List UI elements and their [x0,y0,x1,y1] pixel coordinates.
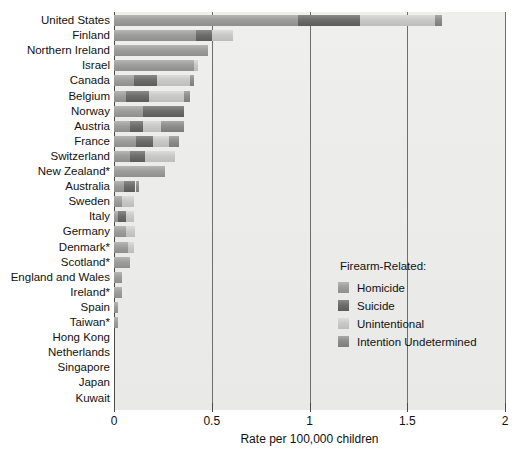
bar-row [114,211,505,222]
x-axis-tick-label: 0 [111,414,118,428]
x-axis-tick [407,403,408,412]
gridline-2 [505,12,506,410]
bar-row [114,242,505,253]
category-label: Ireland* [2,287,110,298]
legend-item-homicide: Homicide [338,281,496,294]
bar-segment-suicide [124,181,136,192]
legend-item-undetermined: Intention Undetermined [338,335,496,348]
bar-row [114,106,505,117]
bar-row [114,91,505,102]
bar-segment-homicide [114,317,118,328]
legend-swatch-unintentional [338,318,349,329]
legend-swatch-homicide [338,282,349,293]
bar-row [114,393,505,404]
bar-segment-homicide [114,181,124,192]
bar-segment-homicide [114,60,194,71]
bar-segment-unintentional [145,151,174,162]
category-label: France [2,136,110,147]
category-label: Germany [2,226,110,237]
bar-segment-homicide [114,136,136,147]
category-label: Italy [2,211,110,222]
bar-segment-unintentional [194,60,198,71]
category-label: Finland [2,30,110,41]
legend-label-suicide: Suicide [357,300,395,312]
category-axis-labels: United StatesFinlandNorthern IrelandIsra… [0,12,110,410]
bar-row [114,362,505,373]
category-label: Singapore [2,362,110,373]
bar-row [114,377,505,388]
category-label: Denmark* [2,242,110,253]
bar-row [114,45,505,56]
x-axis-tick [114,403,115,412]
bar-segment-intention-undetermined [169,136,179,147]
bar-segment-suicide [136,136,154,147]
bar-row [114,121,505,132]
bar-segment-unintentional [212,30,234,41]
bar-segment-intention-undetermined [161,121,184,132]
legend: Firearm-Related: HomicideSuicideUnintent… [338,260,496,353]
bar-segment-homicide [114,151,130,162]
bar-segment-homicide [114,196,122,207]
bar-segment-suicide [196,30,212,41]
bar-segment-homicide [114,30,196,41]
bar-segment-homicide [114,91,126,102]
bar-segment-intention-undetermined [190,75,194,86]
category-label: Norway [2,106,110,117]
x-axis-tick-label: 1 [306,414,313,428]
category-label: Northern Ireland [2,45,110,56]
category-label: Belgium [2,91,110,102]
x-axis-tick [505,403,506,412]
legend-swatch-suicide [338,300,349,311]
x-axis-tick-label: 1.5 [399,414,416,428]
bar-segment-homicide [114,106,143,117]
bar-segment-unintentional [157,75,190,86]
x-axis-title: Rate per 100,000 children [114,432,505,446]
bar-row [114,15,505,26]
x-axis-tick-label: 0.5 [203,414,220,428]
category-label: New Zealand* [2,166,110,177]
bar-segment-suicide [126,91,149,102]
bar-row [114,75,505,86]
x-axis-tick [310,403,311,412]
bar-segment-homicide [114,45,208,56]
category-label: Canada [2,75,110,86]
category-label: England and Wales [2,272,110,283]
bar-segment-homicide [114,75,134,86]
legend-items: HomicideSuicideUnintentionalIntention Un… [338,281,496,348]
category-label: Australia [2,181,110,192]
bar-segment-suicide [130,121,144,132]
bar-row [114,60,505,71]
bar-segment-suicide [134,75,157,86]
bar-segment-unintentional [122,196,134,207]
bar-segment-homicide [114,242,128,253]
bar-segment-homicide [114,166,165,177]
bar-segment-unintentional [126,211,134,222]
bar-row [114,166,505,177]
category-label: Austria [2,121,110,132]
bar-segment-intention-undetermined [435,15,443,26]
bar-segment-suicide [130,151,146,162]
plot-area: Firearm-Related: HomicideSuicideUnintent… [114,12,505,410]
legend-label-homicide: Homicide [357,282,405,294]
legend-label-unintentional: Unintentional [357,318,424,330]
bar-segment-homicide [114,121,130,132]
bar-segment-homicide [114,272,122,283]
bar-segment-intention-undetermined [136,181,140,192]
bar-segment-unintentional [149,91,184,102]
bar-segment-intention-undetermined [184,91,190,102]
category-label: Switzerland [2,151,110,162]
bar-segment-homicide [114,257,130,268]
bar-row [114,30,505,41]
bar-row [114,196,505,207]
bar-row [114,151,505,162]
category-label: Sweden [2,196,110,207]
legend-label-undetermined: Intention Undetermined [357,336,477,348]
bar-segment-homicide [114,226,126,237]
x-axis-tick [212,403,213,412]
bar-segment-homicide [114,302,118,313]
bar-segment-unintentional [360,15,434,26]
legend-item-unintentional: Unintentional [338,317,496,330]
firearm-death-rate-chart: United StatesFinlandNorthern IrelandIsra… [0,0,525,456]
bar-row [114,226,505,237]
bar-row [114,181,505,192]
